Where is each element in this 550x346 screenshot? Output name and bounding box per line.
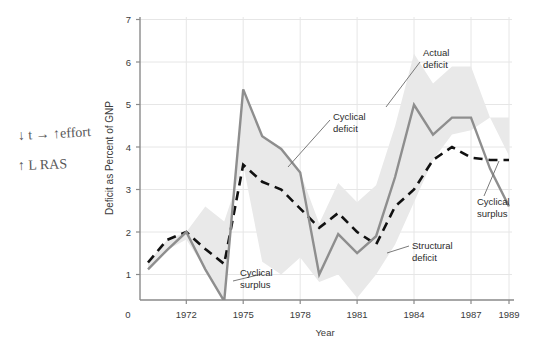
x-tick-label-1984: 1984 — [403, 309, 424, 320]
annotation-cyclical-surplus-left-line1: Cyclical — [240, 267, 273, 278]
handwritten-note-line1: ↓ t → ↑effort — [17, 124, 91, 143]
y-tick-label-4: 4 — [126, 142, 131, 153]
x-tick-label-1975: 1975 — [233, 309, 254, 320]
y-tick-label-3: 3 — [126, 184, 131, 195]
annotation-cyclical-surplus-right: Cyclical surplus — [477, 196, 510, 219]
chart-page: 7 6 5 4 3 2 1 0 1972 1975 1978 1981 1984… — [0, 0, 550, 346]
handwritten-note-line2: ↑ L RAS — [18, 156, 68, 173]
annotation-cyclical-surplus-left: Cyclical surplus — [240, 267, 273, 290]
x-tick-label-1987: 1987 — [460, 309, 481, 320]
annotation-actual-deficit-line1: Actual — [423, 47, 449, 58]
x-tick-label-1981: 1981 — [347, 309, 368, 320]
x-tick-label-1972: 1972 — [176, 309, 197, 320]
annotation-structural-deficit-line1: Structural — [412, 240, 453, 251]
y-tick-label-2: 2 — [126, 227, 131, 238]
handwritten-notes: ↓ t → ↑effort ↑ L RAS — [17, 124, 91, 173]
annotation-cyclical-surplus-right-line1: Cyclical — [477, 196, 510, 207]
annotation-actual-deficit-line2: deficit — [423, 59, 448, 70]
y-tick-label-7: 7 — [126, 14, 131, 25]
deficit-gnp-chart: 7 6 5 4 3 2 1 0 1972 1975 1978 1981 1984… — [0, 0, 550, 346]
y-tick-label-6: 6 — [126, 57, 131, 68]
annotation-cyclical-surplus-right-line2: surplus — [477, 208, 508, 219]
annotation-structural-deficit-line2: deficit — [412, 252, 437, 263]
y-tick-label-1: 1 — [126, 269, 131, 280]
annotation-actual-deficit: Actual deficit — [423, 47, 449, 70]
annotation-cyclical-deficit-line2: deficit — [333, 123, 358, 134]
y-tick-label-5: 5 — [126, 99, 131, 110]
annotation-cyclical-deficit-line1: Cyclical — [333, 111, 366, 122]
x-tick-label-1978: 1978 — [290, 309, 311, 320]
y-axis-title: Deficit as Percent of GNP — [104, 101, 115, 215]
annotation-cyclical-surplus-left-line2: surplus — [240, 279, 271, 290]
x-axis-title: Year — [315, 327, 334, 338]
x-tick-label-1989: 1989 — [498, 309, 519, 320]
x-origin-label: 0 — [125, 309, 130, 320]
